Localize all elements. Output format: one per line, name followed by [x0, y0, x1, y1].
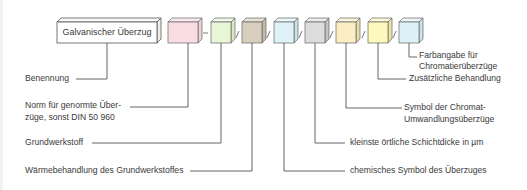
label-zusaetzliche: Zusätzliche Behandlung [409, 73, 501, 85]
label-farbangabe-line1: Farbangabe für [419, 50, 478, 62]
box-waermebehandlung [242, 18, 266, 43]
box-chem-symbol [274, 18, 298, 43]
label-benennung: Benennung [25, 73, 69, 85]
label-norm-line2: züge, sonst DIN 50 960 [25, 112, 115, 124]
label-farbangabe-line2: Chromatierüberzüge [419, 61, 497, 73]
leader-lines [76, 43, 417, 171]
box-chromat-symbol [336, 18, 360, 43]
box-schichtdicke [305, 18, 329, 43]
code-boxes [168, 18, 423, 43]
label-waermebehandlung: Wärmebehandlung des Grundwerkstoffes [25, 165, 183, 177]
box-zusaetzliche-behandlung [368, 18, 392, 43]
box-farbangabe [399, 18, 423, 43]
label-chem-symbol: chemisches Symbol des Überzuges [350, 165, 487, 177]
label-schichtdicke: kleinste örtliche Schichtdicke in µm [350, 137, 483, 149]
label-symbol-line1: Symbol der Chromat- [404, 102, 486, 114]
main-box-label: Galvanischer Überzug [60, 27, 154, 37]
label-grundwerkstoff: Grundwerkstoff [25, 137, 83, 149]
label-symbol-line2: Umwandlungsüberzüge [404, 114, 494, 126]
box-norm [168, 18, 202, 43]
label-norm-line1: Norm für genormte Über- [25, 100, 121, 112]
box-grundwerkstoff [211, 18, 235, 43]
